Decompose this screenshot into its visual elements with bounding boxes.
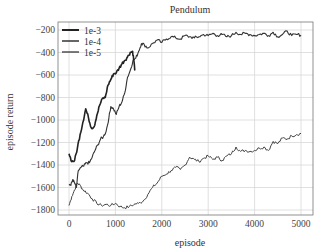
x-tick-label: 4000 bbox=[245, 219, 264, 229]
x-tick-label: 0 bbox=[67, 219, 72, 229]
y-tick-label: −400 bbox=[35, 48, 55, 58]
x-tick-label: 2000 bbox=[152, 219, 171, 229]
y-tick-label: −1000 bbox=[31, 115, 56, 125]
series-line-1e-3 bbox=[69, 51, 135, 161]
legend-label: 1e-5 bbox=[84, 48, 101, 58]
y-tick-label: −1200 bbox=[31, 138, 56, 148]
x-tick-label: 5000 bbox=[292, 219, 311, 229]
legend-label: 1e-3 bbox=[84, 26, 101, 36]
series-line-1e-4 bbox=[69, 31, 301, 188]
y-tick-label: −600 bbox=[35, 70, 55, 80]
x-axis-ticks: 010002000300040005000 bbox=[67, 219, 311, 229]
series-line-1e-5 bbox=[69, 134, 301, 209]
y-tick-label: −800 bbox=[35, 93, 55, 103]
x-axis-label: episode bbox=[175, 237, 206, 248]
chart-title: Pendulum bbox=[170, 4, 211, 15]
chart-canvas: Pendulum −200−400−600−800−1000−1200−1400… bbox=[0, 0, 324, 252]
y-tick-label: −1800 bbox=[31, 205, 56, 215]
y-tick-label: −1400 bbox=[31, 160, 56, 170]
y-tick-label: −1600 bbox=[31, 183, 56, 193]
x-tick-label: 1000 bbox=[106, 219, 125, 229]
legend-label: 1e-4 bbox=[84, 37, 101, 47]
x-tick-label: 3000 bbox=[199, 219, 218, 229]
y-tick-label: −200 bbox=[35, 25, 55, 35]
y-axis-ticks: −200−400−600−800−1000−1200−1400−1600−180… bbox=[31, 25, 56, 215]
y-axis-label: episode return bbox=[4, 94, 15, 151]
